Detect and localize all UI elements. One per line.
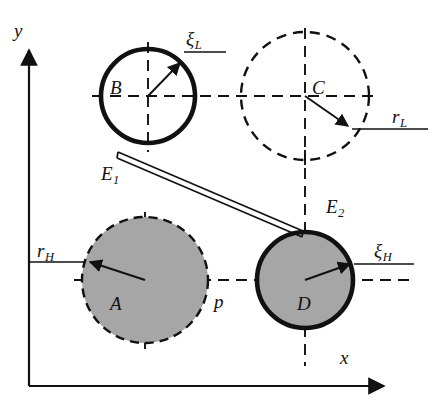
point-label-e2: E2 (326, 197, 344, 219)
radius-label-xi-l-base: ξ (186, 28, 194, 49)
label-p: p (214, 292, 224, 311)
radius-label-xi-l: ξL (186, 29, 202, 51)
radius-label-r-l-subscript: L (399, 116, 406, 130)
point-label-e1: E1 (101, 164, 119, 186)
radius-label-r-h: rH (37, 241, 54, 263)
axis-label-y: y (14, 21, 22, 40)
point-label-e1-subscript: 1 (113, 173, 120, 187)
diagram-svg (0, 0, 438, 405)
point-label-e2-base: E (326, 196, 338, 217)
radius-label-r-h-subscript: H (44, 250, 54, 264)
radius-arrow-xi-l (148, 63, 180, 96)
radius-label-xi-h-subscript: H (382, 250, 392, 264)
axis-label-x: x (340, 348, 348, 367)
point-label-e1-base: E (101, 163, 113, 184)
connecting-rod-cap-left (117, 152, 118, 158)
point-label-e2-subscript: 2 (338, 206, 345, 220)
circle-label-b: B (110, 78, 122, 97)
radius-label-xi-h: ξH (374, 241, 392, 263)
radius-label-xi-h-base: ξ (374, 240, 382, 261)
radius-label-r-l: rL (392, 107, 407, 129)
circle-label-d: D (297, 294, 311, 313)
connecting-rod-cap-right (302, 231, 303, 237)
radius-arrow-r-l (305, 96, 348, 126)
circle-label-a: A (110, 294, 122, 313)
figure-canvas: y x B C A D ξL rL rH ξH E1 E2 p (0, 0, 438, 405)
circle-label-c: C (312, 78, 325, 97)
radius-label-xi-l-subscript: L (194, 38, 201, 52)
